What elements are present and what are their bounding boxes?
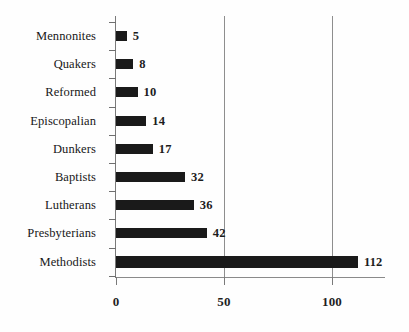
- bar-value-episcopalian: 14: [152, 113, 165, 128]
- category-label-presbyterians: Presbyterians: [27, 226, 96, 241]
- y-tick-5: [109, 191, 116, 192]
- x-tick-label-0: 0: [113, 294, 120, 310]
- bar-mennonites: [116, 31, 127, 41]
- category-label-quakers: Quakers: [54, 57, 96, 72]
- category-label-baptists: Baptists: [55, 170, 96, 185]
- bar-value-lutherans: 36: [200, 198, 213, 213]
- category-label-mennonites: Mennonites: [36, 29, 96, 44]
- bar-lutherans: [116, 200, 194, 210]
- y-tick-top: [109, 22, 116, 23]
- y-tick-6: [109, 219, 116, 220]
- y-tick-8: [109, 276, 116, 277]
- category-label-dunkers: Dunkers: [53, 141, 96, 156]
- x-tick-100: [332, 277, 333, 285]
- category-label-methodists: Methodists: [39, 254, 96, 269]
- bar-value-methodists: 112: [364, 254, 383, 269]
- x-tick-50: [224, 277, 225, 285]
- bar-chart: MennonitesQuakersReformedEpiscopalianDun…: [0, 0, 409, 332]
- y-tick-7: [109, 248, 116, 249]
- x-tick-label-50: 50: [217, 294, 230, 310]
- gridline-100: [332, 16, 333, 277]
- y-tick-3: [109, 135, 116, 136]
- plot-area: MennonitesQuakersReformedEpiscopalianDun…: [0, 0, 409, 332]
- x-tick-0: [116, 277, 117, 285]
- bar-episcopalian: [116, 116, 146, 126]
- category-label-lutherans: Lutherans: [45, 198, 96, 213]
- category-label-reformed: Reformed: [45, 85, 96, 100]
- bar-value-presbyterians: 42: [213, 226, 226, 241]
- bar-dunkers: [116, 144, 153, 154]
- bar-quakers: [116, 59, 133, 69]
- bar-methodists: [116, 256, 358, 268]
- category-label-episcopalian: Episcopalian: [30, 113, 96, 128]
- bar-value-dunkers: 17: [159, 141, 172, 156]
- bar-reformed: [116, 87, 138, 97]
- y-tick-4: [109, 163, 116, 164]
- bar-baptists: [116, 172, 185, 182]
- x-axis-line: [116, 277, 385, 278]
- bar-presbyterians: [116, 228, 207, 238]
- bar-value-mennonites: 5: [133, 29, 139, 44]
- x-tick-label-100: 100: [322, 294, 342, 310]
- bar-value-baptists: 32: [191, 170, 204, 185]
- bar-value-quakers: 8: [139, 57, 145, 72]
- y-tick-0: [109, 50, 116, 51]
- y-tick-2: [109, 107, 116, 108]
- y-tick-1: [109, 78, 116, 79]
- bar-value-reformed: 10: [144, 85, 157, 100]
